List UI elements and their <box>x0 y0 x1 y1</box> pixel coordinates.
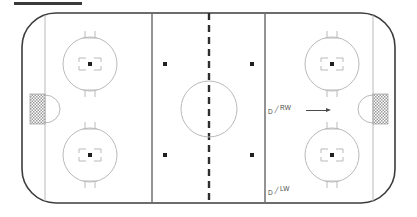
annotation-d-lw: D/LW <box>268 185 290 196</box>
rink-diagram: D/RW D/LW <box>0 0 417 217</box>
neutral-dot-top-right <box>250 62 254 66</box>
annotation-lw-position-right: LW <box>280 185 290 192</box>
neutral-dot-bottom-right <box>250 153 254 157</box>
right-arrow-icon <box>306 110 332 111</box>
neutral-dot-bottom-left <box>163 153 167 157</box>
annotation-lw-position-left: D <box>268 189 273 196</box>
arrow-head <box>326 108 331 112</box>
annotation-d-rw: D/RW <box>268 104 291 115</box>
annotation-rw-position-left: D <box>268 108 273 115</box>
ice-surface <box>0 0 417 217</box>
neutral-dot-top-left <box>163 62 167 66</box>
annotation-rw-position-right: RW <box>280 104 291 111</box>
annotation-rw-separator: / <box>274 104 280 115</box>
arrow-shaft <box>306 110 328 111</box>
annotation-lw-separator: / <box>274 185 280 196</box>
